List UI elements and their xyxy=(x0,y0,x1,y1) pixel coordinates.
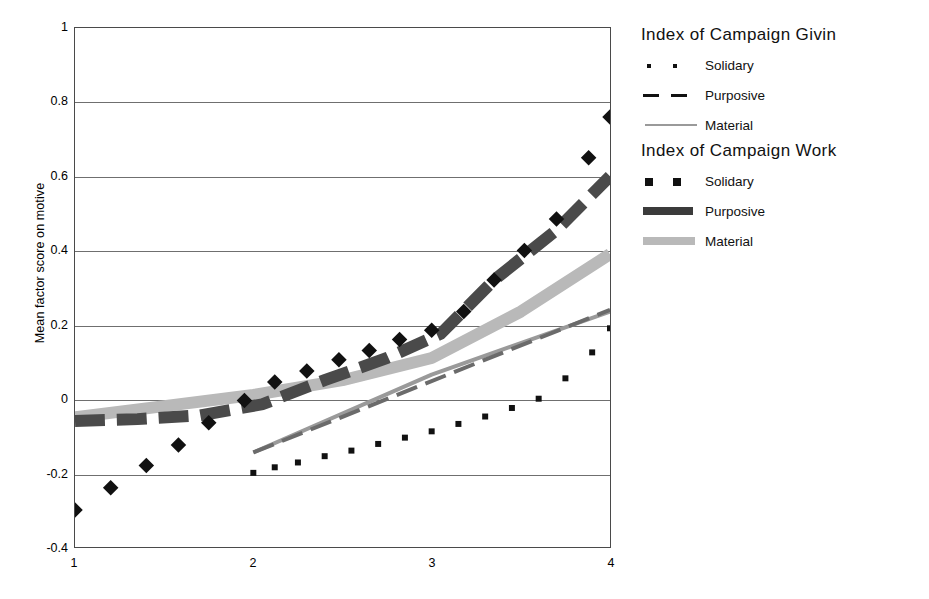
legend-item-label: Material xyxy=(705,234,753,249)
dashed-thick-swatch xyxy=(641,204,699,218)
x-axis-tick-labels: 1234 xyxy=(0,556,929,580)
legend-item[interactable]: Material xyxy=(641,226,929,256)
dashed-thin-swatch xyxy=(641,88,699,102)
legend-item-label: Solidary xyxy=(705,174,754,189)
chart-root: Mean factor score on motive 10.80.60.40.… xyxy=(0,0,929,599)
legend-item-label: Material xyxy=(705,118,753,133)
solid-thin-swatch xyxy=(641,118,699,132)
y-tick-label: -0.2 xyxy=(34,467,68,481)
legend-item-label: Purposive xyxy=(705,88,765,103)
legend: Index of Campaign GivinSolidaryPurposive… xyxy=(641,24,929,256)
y-tick-label: 0.4 xyxy=(34,243,68,257)
solid-thick-swatch xyxy=(641,234,699,248)
y-tick-label: 1 xyxy=(34,20,68,34)
y-tick-label: 0 xyxy=(34,392,68,406)
dotted-thin-swatch xyxy=(641,58,699,72)
series-layer xyxy=(75,28,610,547)
y-tick-label: -0.4 xyxy=(34,541,68,555)
legend-item-label: Solidary xyxy=(705,58,754,73)
series-square-markers xyxy=(75,109,610,517)
legend-item[interactable]: Solidary xyxy=(641,50,929,80)
y-tick-label: 0.8 xyxy=(34,94,68,108)
legend-group-title: Index of Campaign Work xyxy=(641,140,929,162)
x-tick-label: 2 xyxy=(233,556,273,570)
plot-area xyxy=(74,27,611,548)
x-tick-label: 4 xyxy=(591,556,631,570)
legend-item[interactable]: Purposive xyxy=(641,196,929,226)
legend-item[interactable]: Solidary xyxy=(641,166,929,196)
legend-group-title: Index of Campaign Givin xyxy=(641,24,929,46)
y-axis-tick-labels: 10.80.60.40.20-0.2-0.4 xyxy=(28,0,68,599)
legend-item-label: Purposive xyxy=(705,204,765,219)
legend-item[interactable]: Material xyxy=(641,110,929,140)
x-tick-label: 3 xyxy=(412,556,452,570)
square-marker-swatch xyxy=(641,174,699,188)
y-tick-label: 0.6 xyxy=(34,169,68,183)
legend-item[interactable]: Purposive xyxy=(641,80,929,110)
series-dotted-thin xyxy=(250,325,610,476)
x-tick-label: 1 xyxy=(54,556,94,570)
series-solid-thick xyxy=(75,254,610,417)
y-tick-label: 0.2 xyxy=(34,318,68,332)
